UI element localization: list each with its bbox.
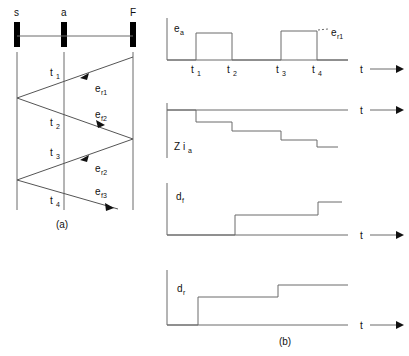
panel-ea-axis-label: t xyxy=(360,64,363,75)
svg-text:f3: f3 xyxy=(101,192,107,199)
panel-zia: Z i a t xyxy=(167,103,404,158)
ray-er1 xyxy=(17,57,133,98)
panel-dr-axis-arrow: t xyxy=(360,320,404,331)
panel-df-signal-label: d f xyxy=(176,191,184,204)
svg-text:a: a xyxy=(180,29,184,36)
lattice-time-label-t3: t 3 xyxy=(50,147,60,160)
panel-ea-tick-t1: t 1 xyxy=(191,64,201,77)
svg-text:Z i: Z i xyxy=(174,141,185,152)
panel-zia-signal-label: Z i a xyxy=(174,141,192,154)
figure-root: s a F t 1 t xyxy=(0,0,409,356)
terminal-bar-a: a xyxy=(61,7,67,47)
terminal-bar-F: F xyxy=(130,7,136,47)
svg-text:f: f xyxy=(182,197,184,204)
panel-ea: e a e r1 t 1 t 2 t 3 t 4 t xyxy=(167,18,404,77)
svg-text:d: d xyxy=(177,283,183,294)
terminal-label-s: s xyxy=(14,7,19,18)
svg-text:a: a xyxy=(188,147,192,154)
panel-zia-waveform xyxy=(167,110,338,147)
panel-df-axis-arrow: t xyxy=(360,230,404,241)
svg-text:t: t xyxy=(227,64,230,75)
terminal-label-F: F xyxy=(130,7,136,18)
svg-text:3: 3 xyxy=(282,70,286,77)
svg-text:t: t xyxy=(50,195,53,206)
panel-dr-axis-label: t xyxy=(360,320,363,331)
svg-text:4: 4 xyxy=(56,201,60,208)
panel-ea-tick-t4: t 4 xyxy=(312,64,322,77)
svg-text:r2: r2 xyxy=(101,169,107,176)
svg-text:f2: f2 xyxy=(101,115,107,122)
panel-dr-waveform xyxy=(167,285,348,325)
caption-b: (b) xyxy=(279,336,291,347)
svg-text:t: t xyxy=(191,64,194,75)
lattice-time-label-t2: t 2 xyxy=(50,117,60,130)
panel-df: d f t xyxy=(167,183,404,241)
panel-ea-axis-arrow: t xyxy=(360,64,404,75)
svg-text:4: 4 xyxy=(318,70,322,77)
panel-zia-axis-arrow: t xyxy=(360,105,404,116)
caption-a: (a) xyxy=(56,219,68,230)
svg-text:1: 1 xyxy=(197,70,201,77)
svg-text:2: 2 xyxy=(56,123,60,130)
lattice-diagram: s a F t 1 t xyxy=(14,7,136,230)
panel-ea-waveform xyxy=(167,31,348,60)
panel-dr: d r t xyxy=(167,270,404,331)
panel-ea-signal-label: e a xyxy=(174,23,184,36)
svg-text:r1: r1 xyxy=(101,89,107,96)
svg-text:3: 3 xyxy=(56,153,60,160)
panel-ea-annotation-label: e r1 xyxy=(331,27,343,40)
svg-text:d: d xyxy=(176,191,182,202)
svg-text:t: t xyxy=(50,117,53,128)
lattice-wave-label-er2: e r2 xyxy=(95,163,107,176)
svg-text:t: t xyxy=(312,64,315,75)
svg-text:r: r xyxy=(183,289,186,296)
svg-text:2: 2 xyxy=(233,70,237,77)
terminal-label-a: a xyxy=(61,7,67,18)
ray-er2 xyxy=(17,139,133,180)
panel-df-waveform xyxy=(167,202,342,235)
panel-zia-axis-label: t xyxy=(360,105,363,116)
lattice-wave-label-ef2: e f2 xyxy=(95,109,107,122)
lattice-time-label-t4: t 4 xyxy=(50,195,60,208)
panel-df-axis-label: t xyxy=(360,230,363,241)
svg-text:t: t xyxy=(50,147,53,158)
lattice-time-label-t1: t 1 xyxy=(50,67,60,80)
svg-text:t: t xyxy=(276,64,279,75)
ray-ef2 xyxy=(17,98,133,139)
svg-text:r1: r1 xyxy=(337,33,343,40)
panel-ea-annotation-tick xyxy=(318,29,328,30)
panel-dr-signal-label: d r xyxy=(177,283,186,296)
terminal-bar-s: s xyxy=(14,7,20,47)
svg-text:t: t xyxy=(50,67,53,78)
svg-text:1: 1 xyxy=(56,73,60,80)
panel-ea-tick-t2: t 2 xyxy=(227,64,237,77)
lattice-wave-label-ef3: e f3 xyxy=(95,186,107,199)
panel-ea-tick-t3: t 3 xyxy=(276,64,286,77)
lattice-wave-label-er1: e r1 xyxy=(95,83,107,96)
